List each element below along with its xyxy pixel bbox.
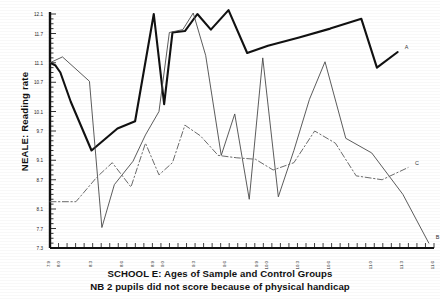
series-line-A <box>50 10 398 150</box>
x-tick-label: 9.6 <box>222 260 227 267</box>
y-tick-label: 7.3 <box>37 246 44 251</box>
x-tick-label: 7.9 <box>46 260 51 267</box>
tick-marks-layer <box>50 14 434 248</box>
x-tick-label: 8.3 <box>88 260 93 267</box>
series-label-A: A <box>405 44 409 50</box>
y-tick-label: 9.7 <box>37 129 44 134</box>
series-end-labels: ABC <box>405 44 440 240</box>
chart-caption-primary: SCHOOL E: Ages of Sample and Control Gro… <box>0 268 440 279</box>
x-tick-label: 9.3 <box>191 260 196 267</box>
x-tick-label: 9.9 <box>254 260 259 267</box>
y-tick-label: 7.7 <box>37 227 44 232</box>
x-tick-label: 8.6 <box>119 260 124 267</box>
y-tick-label: 11.1 <box>34 61 43 66</box>
x-tick-label: 8.9 <box>150 260 155 267</box>
y-tick-label: 9.1 <box>37 158 44 163</box>
line-chart-plot: 12.111.711.110.710.19.79.18.78.17.77.3 7… <box>0 0 440 299</box>
x-tick-label: 9.0 <box>160 260 165 267</box>
chart-caption-secondary: NB 2 pupils did not score because of phy… <box>0 281 440 292</box>
axes-layer <box>50 12 434 248</box>
y-tick-label: 8.1 <box>37 207 44 212</box>
y-tick-labels: 12.111.711.110.710.19.79.18.78.17.77.3 <box>34 12 43 251</box>
x-tick-label: 8.0 <box>56 260 61 267</box>
data-series-layer <box>50 10 429 243</box>
y-tick-label: 8.7 <box>37 178 44 183</box>
series-label-C: C <box>415 160 419 166</box>
y-axis-title: NEALE: Reading rate <box>19 52 30 192</box>
y-tick-label: 10.1 <box>34 110 43 115</box>
y-tick-label: 12.1 <box>34 12 43 17</box>
chart-figure: NEALE: Reading rate 12.111.711.110.710.1… <box>0 0 440 299</box>
series-line-B <box>50 13 429 243</box>
series-line-C <box>50 125 408 202</box>
y-tick-label: 11.7 <box>34 32 43 37</box>
series-label-B: B <box>436 234 440 240</box>
y-tick-label: 10.7 <box>34 80 43 85</box>
